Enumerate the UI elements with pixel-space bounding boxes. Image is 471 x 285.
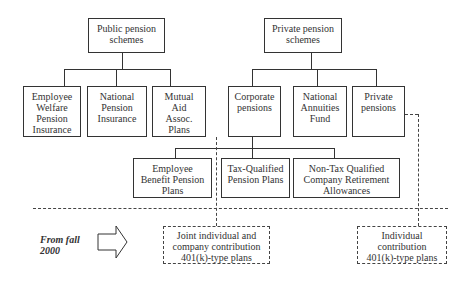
box-label: Mutual Aid Assoc. Plans (165, 91, 194, 135)
national-annuities-fund-box: National Annuities Fund (293, 86, 347, 137)
joint-401k-plans-box: Joint individual and company contributio… (163, 226, 270, 264)
right-arrow-icon (97, 225, 129, 259)
dashed-connector (216, 137, 217, 226)
from-fall-2000-label: From fall 2000 (40, 234, 80, 256)
box-label: Employee Welfare Pension Insurance (32, 91, 73, 135)
connector (175, 148, 176, 158)
connector (252, 137, 253, 148)
employee-benefit-pension-plans-box: Employee Benefit Pension Plans (133, 158, 212, 198)
tax-qualified-pension-plans-box: Tax-Qualified Pension Plans (221, 158, 290, 198)
box-label: National Annuities Fund (301, 91, 340, 124)
employee-welfare-pension-insurance-box: Employee Welfare Pension Insurance (23, 86, 81, 137)
connector (376, 69, 377, 86)
connector (252, 69, 377, 70)
private-pension-schemes-box: Private pension schemes (264, 18, 342, 53)
public-pension-schemes-box: Public pension schemes (88, 18, 165, 53)
national-pension-insurance-box: National Pension Insurance (87, 86, 147, 137)
box-label: Non-Tax Qualified Company Retirement All… (304, 163, 390, 196)
connector (116, 69, 117, 86)
connector (334, 148, 335, 158)
connector (311, 53, 312, 69)
box-label: Private pensions (361, 91, 396, 113)
box-label: Tax-Qualified Pension Plans (228, 163, 284, 185)
non-tax-qualified-company-retirement-allowances-box: Non-Tax Qualified Company Retirement All… (293, 158, 400, 198)
pension-diagram: Public pension schemes Employee Welfare … (0, 0, 471, 285)
box-label: Individual contribution 401(k)-type plan… (367, 230, 438, 263)
connector (252, 148, 253, 158)
connector (317, 69, 318, 86)
connector (252, 69, 253, 86)
corporate-pensions-box: Corporate pensions (228, 86, 281, 137)
box-label: Corporate pensions (235, 91, 275, 113)
public-pension-schemes-label: Public pension schemes (97, 23, 156, 45)
private-pensions-box: Private pensions (352, 86, 405, 137)
connector (175, 148, 335, 149)
dashed-connector (418, 114, 419, 226)
box-label: National Pension Insurance (98, 91, 137, 124)
connector (170, 69, 171, 86)
individual-401k-plans-box: Individual contribution 401(k)-type plan… (357, 226, 447, 264)
dashed-connector (405, 114, 418, 115)
mutual-aid-assoc-plans-box: Mutual Aid Assoc. Plans (152, 86, 206, 137)
private-pension-schemes-label: Private pension schemes (272, 23, 334, 45)
box-label: Employee Benefit Pension Plans (141, 163, 205, 196)
timeline-divider (33, 208, 448, 209)
connector (122, 53, 123, 69)
connector (64, 69, 171, 70)
box-label: Joint individual and company contributio… (172, 230, 260, 263)
connector (64, 69, 65, 86)
